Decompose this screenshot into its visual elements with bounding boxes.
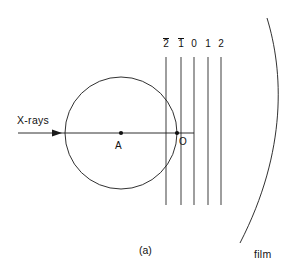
layer-line-label-2: 2 (214, 38, 228, 49)
point-o-marker (175, 131, 179, 135)
x-ray-diffraction-diagram: 2 1 0 1 2 X-rays A O film (a) (0, 0, 294, 279)
xrays-label: X-rays (17, 115, 49, 126)
layer-line-group (166, 57, 221, 205)
point-a-label: A (115, 141, 122, 151)
film-label: film (254, 249, 272, 260)
layer-line-label-1: 1 (201, 38, 215, 49)
point-a-marker (119, 131, 123, 135)
beam-arrowhead-icon (52, 130, 62, 137)
diagram-canvas (0, 0, 294, 279)
layer-line-label-2-bar: 2 (159, 38, 173, 49)
layer-line-label-0: 0 (187, 38, 201, 49)
figure-caption: (a) (139, 245, 152, 256)
film-arc (240, 18, 278, 243)
point-o-label: O (179, 137, 187, 147)
layer-line-label-1-bar: 1 (174, 38, 188, 49)
